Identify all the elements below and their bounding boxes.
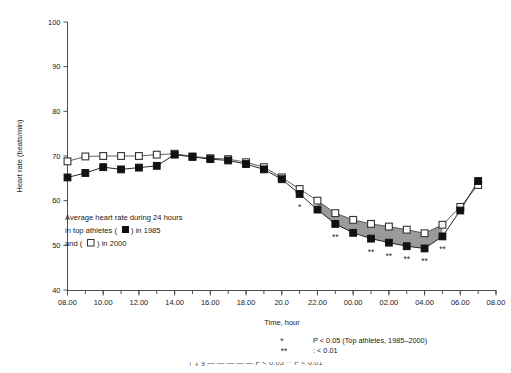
data-point-2000 xyxy=(136,153,143,160)
significance-asterisk: ** xyxy=(421,256,428,266)
cut-off-caption-text: † ‡ § — — — — — P < 0.05 ** P < 0.01 xyxy=(0,362,511,367)
data-point-1985 xyxy=(350,229,357,236)
data-point-1985 xyxy=(421,245,428,252)
data-point-2000 xyxy=(350,216,357,223)
data-point-1985 xyxy=(457,207,464,214)
x-tick-label: 08.00 xyxy=(58,298,77,307)
data-point-1985 xyxy=(261,166,268,173)
significance-asterisk: ** xyxy=(332,232,339,242)
data-point-1985 xyxy=(439,233,446,240)
legend-line-2-pre: in top athletes ( xyxy=(65,226,117,235)
data-point-1985 xyxy=(296,191,303,198)
x-tick-label: 20.0 xyxy=(274,298,289,307)
figure-container: 405060708090100 08.0010.0012.0014.0016.0… xyxy=(0,0,511,373)
x-tick-label: 10.00 xyxy=(94,298,113,307)
data-point-2000 xyxy=(100,153,107,160)
data-point-1985 xyxy=(64,174,71,181)
data-point-1985 xyxy=(385,239,392,246)
y-tick-label: 60 xyxy=(52,196,60,205)
footnote-block: * P < 0.05 (Top athletes, 1985–2000) ** … xyxy=(280,336,427,356)
x-axis-ticks: 08.0010.0012.0014.0016.0018.0020.022.000… xyxy=(58,290,505,307)
x-tick-label: 02.00 xyxy=(379,298,398,307)
data-point-1985 xyxy=(243,161,250,168)
legend-line-1: Average heart rate during 24 hours xyxy=(65,213,183,222)
legend-block: Average heart rate during 24 hours in to… xyxy=(65,213,183,248)
data-point-1985 xyxy=(171,151,178,158)
footnote-text-1: P < 0.05 (Top athletes, 1985–2000) xyxy=(313,336,427,345)
y-tick-label: 40 xyxy=(52,286,60,295)
y-tick-label: 90 xyxy=(52,62,60,71)
x-tick-label: 04.00 xyxy=(415,298,434,307)
data-point-2000 xyxy=(421,230,428,237)
x-tick-label: 08.00 xyxy=(487,298,506,307)
data-point-1985 xyxy=(82,170,89,177)
legend-line-3: and ( xyxy=(65,239,83,248)
data-point-1985 xyxy=(403,243,410,250)
data-point-2000 xyxy=(82,153,89,160)
data-point-1985 xyxy=(278,176,285,183)
footnote-text-2: : < 0.01 xyxy=(313,346,338,355)
data-point-2000 xyxy=(153,151,160,158)
significance-asterisk: ** xyxy=(386,251,393,261)
significance-asterisk: ** xyxy=(368,247,375,257)
heart-rate-line-chart: 405060708090100 08.0010.0012.0014.0016.0… xyxy=(0,0,511,373)
y-axis-title: Heart rate (beats/min) xyxy=(15,119,24,192)
y-tick-label: 80 xyxy=(52,107,60,116)
legend-swatch-open-square xyxy=(88,240,95,247)
x-tick-label: 22.00 xyxy=(308,298,327,307)
y-axis-ticks: 405060708090100 xyxy=(48,18,68,295)
significance-asterisk: ** xyxy=(439,244,446,254)
data-point-2000 xyxy=(439,221,446,228)
legend-line-3-pre: and ( xyxy=(65,239,83,248)
data-point-2000 xyxy=(332,210,339,217)
x-tick-label: 12.00 xyxy=(130,298,149,307)
data-point-2000 xyxy=(64,158,71,165)
significance-asterisk: * xyxy=(298,202,302,212)
data-point-1985 xyxy=(332,220,339,227)
data-point-1985 xyxy=(314,206,321,213)
legend-line-2: in top athletes ( xyxy=(65,226,117,235)
data-point-1985 xyxy=(189,153,196,160)
legend-swatch-filled-square xyxy=(123,227,129,233)
x-tick-label: 16.00 xyxy=(201,298,220,307)
data-point-2000 xyxy=(314,197,321,204)
x-tick-label: 18.00 xyxy=(237,298,256,307)
data-point-1985 xyxy=(136,164,143,171)
y-tick-label: 50 xyxy=(52,241,60,250)
series-markers-2000 xyxy=(64,150,481,236)
x-tick-label: 06.00 xyxy=(451,298,470,307)
y-tick-label: 70 xyxy=(52,152,60,161)
data-point-2000 xyxy=(403,226,410,233)
data-point-1985 xyxy=(368,235,375,242)
data-point-1985 xyxy=(475,178,482,185)
data-point-1985 xyxy=(225,157,232,164)
significance-asterisk: ** xyxy=(403,254,410,264)
data-point-1985 xyxy=(118,166,125,173)
footnote-symbol-1: * xyxy=(280,336,284,346)
legend-line-2-post: ) in 1985 xyxy=(131,226,161,235)
data-point-2000 xyxy=(118,153,125,160)
footnote-symbol-2: ** xyxy=(281,346,288,356)
data-point-1985 xyxy=(100,164,107,171)
data-point-1985 xyxy=(153,162,160,169)
x-tick-label: 14.00 xyxy=(165,298,184,307)
cut-off-caption-strip: † ‡ § — — — — — P < 0.05 ** P < 0.01 xyxy=(0,362,511,373)
x-axis-title: Time, hour xyxy=(264,318,300,327)
data-point-1985 xyxy=(207,156,214,163)
y-tick-label: 100 xyxy=(48,18,61,27)
x-tick-label: 00.00 xyxy=(344,298,363,307)
data-point-2000 xyxy=(385,223,392,230)
legend-line-3-post: ) in 2000 xyxy=(97,239,127,248)
data-point-2000 xyxy=(368,220,375,227)
